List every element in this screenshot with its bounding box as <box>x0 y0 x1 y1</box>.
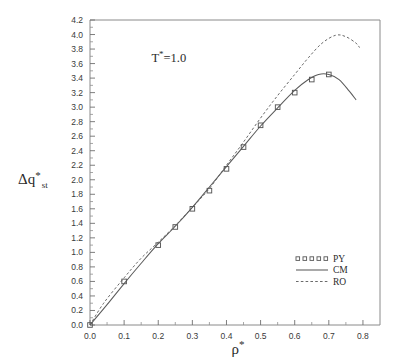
y-tick-label: 1.0 <box>71 247 83 257</box>
y-tick-label: 2.4 <box>71 146 83 156</box>
y-tick-label: 2.0 <box>71 175 83 185</box>
annotation-temperature: T*=1.0 <box>151 49 186 65</box>
legend-label-py: PY <box>333 254 345 264</box>
x-tick-label: 0.5 <box>255 331 267 341</box>
y-tick-label: 4.2 <box>71 15 83 25</box>
y-tick-label: 0.0 <box>71 320 83 330</box>
chart-figure: 0.00.20.40.60.81.01.21.41.61.82.02.22.42… <box>0 0 400 362</box>
y-tick-label: 2.8 <box>71 117 83 127</box>
x-tick-label: 0.8 <box>357 331 369 341</box>
y-tick-label: 0.8 <box>71 262 83 272</box>
y-tick-label: 3.0 <box>71 102 83 112</box>
y-tick-label: 0.6 <box>71 276 83 286</box>
y-tick-label: 3.4 <box>71 73 83 83</box>
x-tick-label: 0.4 <box>221 331 233 341</box>
plot-background <box>0 0 400 362</box>
x-axis-tick-labels: 0.00.10.20.30.40.50.60.70.8 <box>84 331 369 341</box>
x-tick-label: 0.7 <box>323 331 335 341</box>
y-tick-label: 1.6 <box>71 204 83 214</box>
y-tick-label: 1.8 <box>71 189 83 199</box>
x-tick-label: 0.1 <box>118 331 130 341</box>
scatter-plot-canvas: 0.00.20.40.60.81.01.21.41.61.82.02.22.42… <box>0 0 400 362</box>
y-tick-label: 0.4 <box>71 291 83 301</box>
plot-annotations: T*=1.0 <box>151 49 186 65</box>
y-tick-label: 3.2 <box>71 88 83 98</box>
y-tick-label: 3.6 <box>71 59 83 69</box>
x-tick-label: 0.0 <box>84 331 96 341</box>
x-tick-label: 0.3 <box>186 331 198 341</box>
y-tick-label: 1.2 <box>71 233 83 243</box>
y-tick-label: 4.0 <box>71 30 83 40</box>
y-tick-label: 1.4 <box>71 218 83 228</box>
y-tick-label: 3.8 <box>71 44 83 54</box>
y-tick-label: 2.6 <box>71 131 83 141</box>
y-tick-label: 2.2 <box>71 160 83 170</box>
y-tick-label: 0.2 <box>71 305 83 315</box>
x-tick-label: 0.6 <box>289 331 301 341</box>
x-tick-label: 0.2 <box>152 331 164 341</box>
legend-label-ro: RO <box>333 277 346 287</box>
legend-label-cm: CM <box>333 265 348 275</box>
